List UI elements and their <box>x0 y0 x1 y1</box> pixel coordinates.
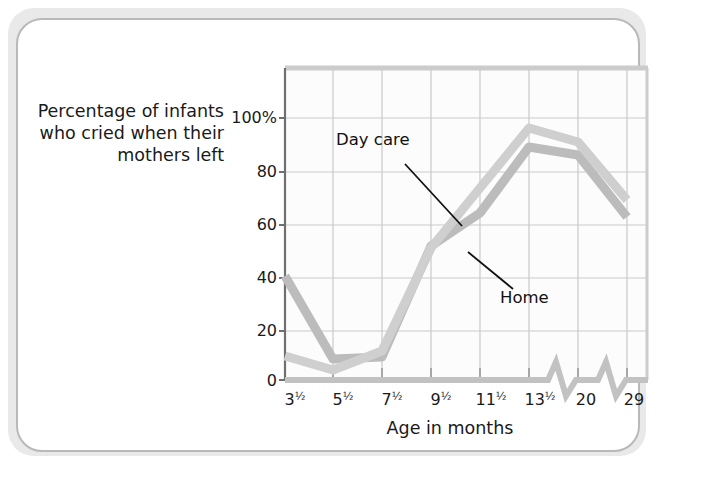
y-tick-label-40: 40 <box>205 268 277 287</box>
x-tick-whole-5: 13 <box>524 390 544 409</box>
x-tick-label-11-half: 11½ <box>464 390 518 409</box>
series-label-home: Home <box>500 288 549 307</box>
x-tick-label-9-half: 9½ <box>418 390 464 409</box>
x-tick-label-5-half: 5½ <box>320 390 366 409</box>
y-tick-label-80: 80 <box>205 162 277 181</box>
x-tick-label-7-half: 7½ <box>369 390 415 409</box>
x-tick-frac-3: ½ <box>441 390 452 403</box>
figure-root: Percentage of infants who cried when the… <box>0 0 706 491</box>
y-tick-label-20: 20 <box>205 321 277 340</box>
x-tick-whole-3: 9 <box>431 390 441 409</box>
y-axis-title: Percentage of infants who cried when the… <box>34 100 224 166</box>
x-tick-label-3-half: 3½ <box>272 390 318 409</box>
y-tick-label-60: 60 <box>205 215 277 234</box>
x-tick-frac-4: ½ <box>496 390 507 403</box>
x-tick-whole-0: 3 <box>285 390 295 409</box>
y-tick-label-0: 0 <box>205 371 277 390</box>
x-axis-title: Age in months <box>330 418 570 438</box>
x-tick-whole-1: 5 <box>333 390 343 409</box>
x-tick-label-20: 20 <box>566 390 606 409</box>
x-tick-whole-7: 29 <box>624 390 644 409</box>
x-tick-whole-2: 7 <box>382 390 392 409</box>
x-tick-frac-5: ½ <box>545 390 556 403</box>
x-tick-frac-2: ½ <box>392 390 403 403</box>
x-tick-whole-6: 20 <box>576 390 596 409</box>
y-tick-label-100: 100% <box>205 108 277 127</box>
x-tick-label-13-half: 13½ <box>513 390 567 409</box>
x-tick-frac-1: ½ <box>343 390 354 403</box>
x-tick-frac-0: ½ <box>295 390 306 403</box>
series-label-day-care: Day care <box>336 130 410 149</box>
x-tick-whole-4: 11 <box>475 390 495 409</box>
x-tick-label-29: 29 <box>614 390 654 409</box>
